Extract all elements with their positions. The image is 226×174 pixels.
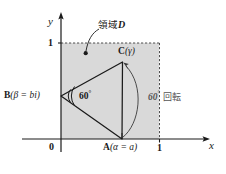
angle-60-value: 60 — [79, 91, 89, 101]
point-c-label: C(γ) — [118, 47, 135, 57]
rotation-annotation-label: 60° 回転 — [148, 91, 181, 103]
region-d-fill — [61, 43, 159, 139]
x-axis-label: x — [209, 140, 214, 151]
point-a-name: A — [103, 142, 110, 152]
region-d-annotation-symbol: D — [118, 19, 125, 30]
point-c-name: C — [118, 46, 125, 56]
rotation-degree-symbol: ° — [158, 90, 161, 97]
y-axis-label: y — [48, 16, 53, 27]
x-axis-tick-label-1: 1 — [157, 143, 162, 153]
rotation-value: 60 — [148, 92, 158, 102]
figure-container: y x 0 1 1 領域D B(β = bi) C(γ) A(α = a) 60… — [0, 0, 226, 174]
region-d-annotation: 領域D — [98, 20, 125, 30]
point-b-label: B(β = bi) — [4, 91, 40, 101]
point-c-expression: (γ) — [125, 46, 135, 56]
point-b-expression: (β = bi) — [10, 90, 40, 100]
point-a-expression: (α = a) — [110, 142, 137, 152]
angle-60-label: 60° — [79, 90, 91, 102]
y-axis-tick-label-1: 1 — [48, 38, 53, 48]
region-d-annotation-text: 領域 — [98, 19, 118, 30]
region-label-leader-dot — [84, 51, 88, 55]
point-a-label: A(α = a) — [103, 143, 137, 153]
rotation-text: 回転 — [163, 92, 181, 102]
origin-label: 0 — [49, 142, 54, 152]
angle-degree-symbol: ° — [89, 89, 92, 97]
